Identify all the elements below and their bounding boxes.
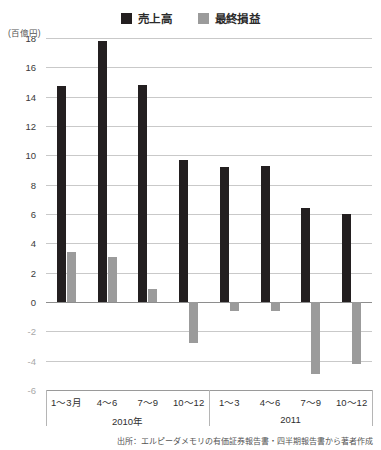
legend-entry-revenue: 売上高 (121, 10, 172, 26)
bar-net-profit-2 (148, 289, 157, 302)
y-axis-tick-10: 10 (25, 150, 36, 161)
bar-net-profit-5 (271, 302, 280, 311)
y-axis-tick-14: 14 (25, 91, 36, 102)
y-axis-tick-0: 0 (31, 297, 36, 308)
y-axis-tick--6: -6 (28, 385, 36, 396)
y-axis-tick-18: 18 (25, 33, 36, 44)
legend-entry-net-profit: 最終損益 (198, 10, 260, 26)
x-axis-endcap-2 (372, 390, 373, 426)
y-axis-tick--4: -4 (28, 355, 36, 366)
legend-label-net-profit: 最終損益 (215, 10, 260, 26)
chart-legend: 売上高 最終損益 (0, 8, 381, 28)
bar-net-profit-1 (108, 257, 117, 302)
x-axis-quarter-label-3: 10〜12 (173, 395, 204, 409)
bar-net-profit-0 (67, 252, 76, 302)
legend-swatch-revenue-icon (121, 13, 132, 24)
bar-revenue-5 (261, 166, 270, 302)
bar-revenue-3 (179, 160, 188, 302)
bar-revenue-4 (220, 167, 229, 302)
x-axis-year-label-1: 2011 (280, 414, 300, 425)
bar-revenue-2 (138, 85, 147, 302)
bar-net-profit-7 (352, 302, 361, 364)
bars-layer (46, 38, 372, 390)
legend-swatch-net-profit-icon (198, 13, 209, 24)
x-axis-quarter-label-4: 1〜3 (219, 395, 240, 409)
bar-net-profit-3 (189, 302, 198, 343)
x-axis-quarter-label-5: 4〜6 (260, 395, 281, 409)
y-axis-tick-16: 16 (25, 62, 36, 73)
bar-net-profit-4 (230, 302, 239, 311)
y-axis-tick-4: 4 (31, 238, 36, 249)
x-axis-quarter-label-2: 7〜9 (138, 395, 159, 409)
x-axis-year-label-0: 2010年 (112, 414, 143, 428)
x-axis-endcap-0 (46, 390, 47, 426)
y-axis-tick-2: 2 (31, 267, 36, 278)
x-axis-quarter-label-6: 7〜9 (301, 395, 322, 409)
bar-revenue-0 (57, 86, 66, 302)
y-axis-tick--2: -2 (28, 326, 36, 337)
bar-revenue-7 (342, 214, 351, 302)
y-axis: 181614121086420-2-4-6 (0, 0, 44, 450)
x-axis-quarter-label-1: 4〜6 (97, 395, 118, 409)
bar-revenue-1 (98, 41, 107, 302)
x-axis-quarter-label-7: 10〜12 (336, 395, 367, 409)
y-axis-tick-8: 8 (31, 179, 36, 190)
legend-label-revenue: 売上高 (138, 10, 172, 26)
bar-revenue-6 (301, 208, 310, 302)
y-axis-tick-6: 6 (31, 209, 36, 220)
source-note: 出所：エルピーダメモリの有価証券報告書・四半期報告書から著者作成 (117, 435, 373, 446)
bar-net-profit-6 (311, 302, 320, 374)
y-axis-tick-12: 12 (25, 121, 36, 132)
x-axis-quarter-label-0: 1〜3月 (51, 395, 82, 409)
x-axis-year-separator (209, 390, 210, 426)
